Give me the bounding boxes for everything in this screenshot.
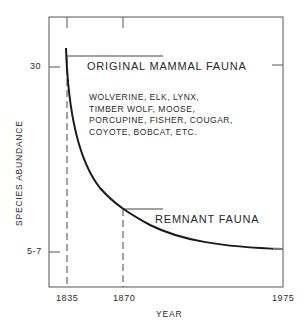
original-fauna-label: ORIGINAL MAMMAL FAUNA: [87, 60, 247, 72]
remnant-fauna-label: REMNANT FAUNA: [155, 213, 259, 225]
x-axis-title: YEAR: [156, 309, 182, 319]
x-tick-label-1870: 1870: [113, 293, 135, 303]
y-axis-title: SPECIES ABUNDANCE: [14, 120, 24, 226]
species-line: COYOTE, BOBCAT, ETC.: [89, 127, 233, 139]
species-line: TIMBER WOLF, MOOSE,: [89, 104, 233, 116]
species-line: PORCUPINE, FISHER, COUGAR,: [89, 115, 233, 127]
species-list: WOLVERINE, ELK, LYNX, TIMBER WOLF, MOOSE…: [89, 92, 233, 138]
y-tick-label-5-7: 5-7: [27, 246, 42, 256]
chart-plot: [0, 0, 306, 334]
species-line: WOLVERINE, ELK, LYNX,: [89, 92, 233, 104]
x-tick-label-1975: 1975: [272, 293, 294, 303]
y-tick-label-30: 30: [30, 61, 41, 71]
x-tick-label-1835: 1835: [56, 293, 78, 303]
